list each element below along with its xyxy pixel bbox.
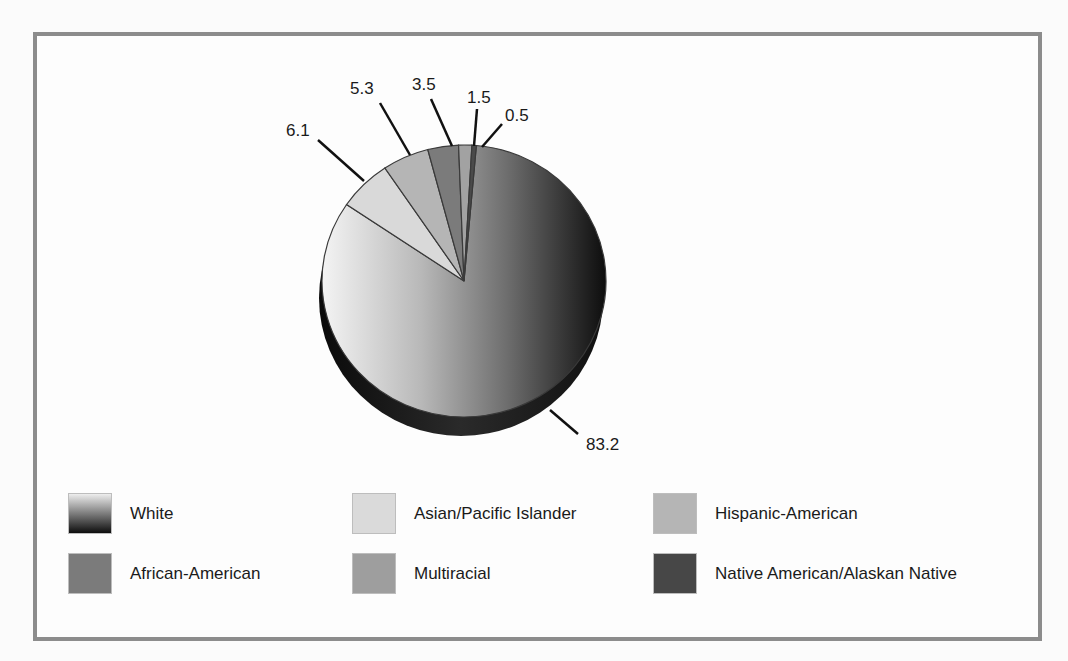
legend-label-white: White — [130, 504, 173, 524]
slice-label-african: 3.5 — [412, 76, 436, 93]
slice-label-hispanic: 5.3 — [350, 80, 374, 97]
leader-line-multiracial — [474, 109, 477, 146]
legend-swatch-multiracial — [352, 553, 396, 594]
legend-swatch-native — [653, 553, 697, 594]
legend-label-native: Native American/Alaskan Native — [715, 564, 957, 584]
leader-line-white — [550, 410, 578, 434]
pie-slices — [322, 145, 606, 417]
legend-item-multiracial: Multiracial — [352, 553, 491, 594]
leader-line-african — [431, 99, 452, 146]
leader-line-hispanic — [380, 103, 410, 155]
slice-label-white: 83.2 — [586, 436, 619, 453]
leader-line-asian — [318, 140, 364, 181]
legend-swatch-african — [68, 553, 112, 594]
slice-label-asian: 6.1 — [286, 122, 310, 139]
legend-item-native: Native American/Alaskan Native — [653, 553, 957, 594]
legend-item-white: White — [68, 493, 173, 534]
legend-label-multiracial: Multiracial — [414, 564, 491, 584]
legend-swatch-asian — [352, 493, 396, 534]
legend-label-african: African-American — [130, 564, 260, 584]
slice-label-native: 0.5 — [505, 107, 529, 124]
legend-item-asian: Asian/Pacific Islander — [352, 493, 577, 534]
legend-item-hispanic: Hispanic-American — [653, 493, 858, 534]
legend-swatch-white — [68, 493, 112, 534]
legend-item-african: African-American — [68, 553, 260, 594]
leader-line-native — [482, 124, 502, 147]
legend-label-hispanic: Hispanic-American — [715, 504, 858, 524]
slice-label-multiracial: 1.5 — [467, 89, 491, 106]
legend-label-asian: Asian/Pacific Islander — [414, 504, 577, 524]
legend-swatch-hispanic — [653, 493, 697, 534]
